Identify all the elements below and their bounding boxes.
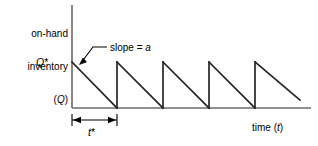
depletion-ramp-3	[163, 62, 209, 108]
slope-annotation-symbol: a	[145, 42, 151, 53]
y-axis-paren-close: )	[65, 94, 68, 105]
q-star-label: Q*	[36, 57, 48, 68]
slope-leader-arrowhead	[80, 58, 87, 65]
t-star-label: t*	[88, 127, 95, 138]
y-axis-title-line1: on-hand	[6, 28, 68, 39]
depletion-ramp-2	[117, 62, 163, 108]
x-axis-title: time (t)	[252, 122, 283, 133]
y-axis-quantity-symbol: Q	[57, 94, 65, 105]
q-star-symbol: Q	[36, 56, 44, 68]
t-star-asterisk: *	[91, 126, 95, 138]
depletion-ramp-1	[72, 62, 117, 108]
x-axis-title-text: time (	[252, 122, 277, 133]
slope-leader-line	[80, 47, 108, 65]
depletion-ramp-4	[209, 62, 255, 108]
y-axis-title-line3: (Q)	[6, 94, 68, 105]
q-star-asterisk: *	[44, 56, 48, 68]
inventory-sawtooth-figure: on-hand inventory (Q) Q* slope = a t* ti…	[0, 0, 318, 146]
t-star-arrowhead-right	[108, 117, 116, 123]
t-star-dimension	[72, 114, 117, 126]
t-star-arrowhead-left	[73, 117, 81, 123]
slope-annotation-text: slope =	[110, 42, 145, 53]
inventory-sawtooth-path	[72, 62, 300, 108]
x-axis-paren-close: )	[280, 122, 283, 133]
slope-annotation-label: slope = a	[110, 42, 151, 53]
depletion-ramp-5	[255, 62, 300, 100]
